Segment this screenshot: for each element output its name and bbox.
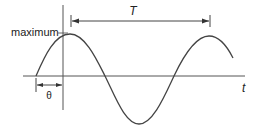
phase-label: θ bbox=[46, 90, 52, 101]
period-label: T bbox=[129, 4, 138, 18]
period-arrowhead-right bbox=[202, 19, 209, 24]
waveform-diagram: T maximum θ t bbox=[0, 0, 258, 132]
time-axis-label: t bbox=[242, 81, 246, 95]
maximum-label: maximum bbox=[11, 26, 59, 38]
phase-arrowhead-right bbox=[56, 83, 62, 87]
period-arrowhead-left bbox=[72, 19, 79, 24]
phase-arrowhead-left bbox=[37, 83, 43, 87]
sine-curve bbox=[36, 34, 233, 124]
